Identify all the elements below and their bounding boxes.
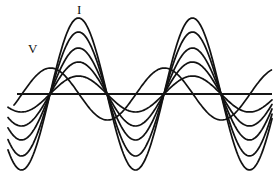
voltage-label: V [28, 42, 37, 55]
current-label: I [77, 3, 81, 16]
waveform-canvas [0, 0, 275, 186]
waveform-figure: I V [0, 0, 275, 186]
